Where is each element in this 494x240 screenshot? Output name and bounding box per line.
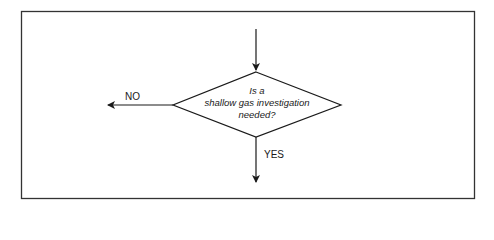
decision-question: Is a shallow gas investigation needed? [196,85,318,121]
question-line-3: needed? [196,109,318,121]
no-label: NO [125,91,140,102]
question-line-1: Is a [196,85,318,97]
yes-label: YES [264,149,284,160]
question-line-2: shallow gas investigation [196,97,318,109]
